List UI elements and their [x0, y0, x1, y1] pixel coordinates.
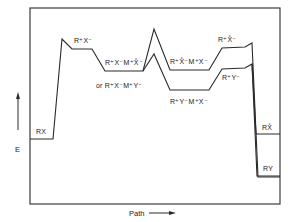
upper-energy-curve	[30, 29, 280, 177]
energy-diagram: E Path RX R⁺X⁻ R⁺X⁻M⁺X̊⁻ or R⁺X⁻M⁺Y⁻ R⁺X…	[0, 0, 292, 222]
ry-level-line	[252, 64, 280, 176]
x-axis-label: Path	[129, 209, 144, 218]
path-arrowhead-icon	[169, 211, 176, 215]
label-or-r-x-m-y: or R⁺X⁻M⁺Y⁻	[96, 82, 143, 89]
y-axis-label: E	[15, 145, 20, 154]
label-rx-star: RX̊	[262, 123, 272, 131]
label-r-x-star: R⁺X̊⁻	[218, 35, 237, 43]
label-r-y-m-x: R⁺Y⁻M⁺X⁻	[170, 98, 208, 105]
label-r-y: R⁺Y⁻	[222, 74, 241, 81]
label-r-x-ion-pair: R⁺X⁻	[74, 37, 93, 44]
label-ry: RY	[263, 165, 273, 172]
label-r-x-star-m-x: R⁺X̊⁻M⁺X⁻	[170, 57, 208, 65]
label-rx: RX	[36, 128, 46, 135]
diagram-frame	[30, 8, 280, 204]
energy-arrowhead-icon	[16, 92, 20, 99]
label-r-x-m-x-star: R⁺X⁻M⁺X̊⁻	[105, 58, 143, 66]
